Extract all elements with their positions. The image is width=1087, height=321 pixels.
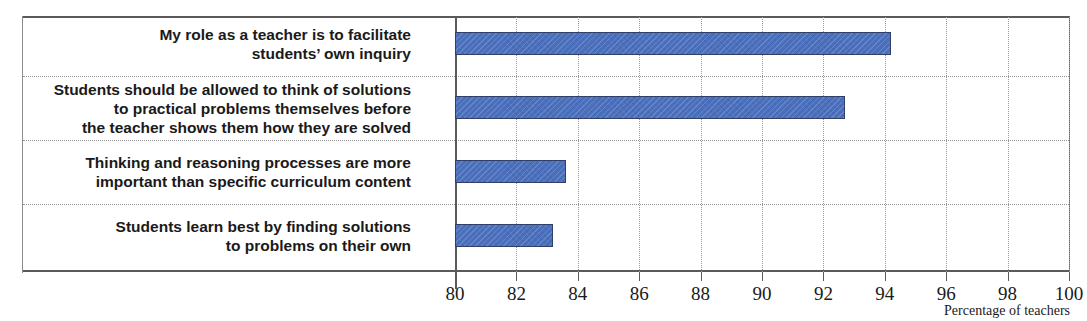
bar bbox=[455, 96, 845, 119]
tick-label: 96 bbox=[937, 283, 956, 305]
bar bbox=[455, 32, 891, 55]
tick-mark bbox=[701, 272, 702, 281]
tick-label: 100 bbox=[1055, 283, 1084, 305]
bar-chart: My role as a teacher is to facilitate st… bbox=[0, 0, 1087, 321]
tick-mark bbox=[823, 272, 824, 281]
gridline bbox=[1069, 17, 1070, 272]
tick-mark bbox=[1008, 272, 1009, 281]
chart-category-row: Students learn best by finding solutions… bbox=[23, 204, 1069, 268]
category-label: Students learn best by finding solutions… bbox=[23, 204, 433, 268]
tick-label: 94 bbox=[875, 283, 894, 305]
tick-mark bbox=[455, 272, 456, 281]
tick-mark bbox=[516, 272, 517, 281]
tick-mark bbox=[946, 272, 947, 281]
tick-mark bbox=[762, 272, 763, 281]
category-label: My role as a teacher is to facilitate st… bbox=[23, 12, 433, 76]
category-label: Students should be allowed to think of s… bbox=[23, 76, 433, 140]
chart-category-row: Students should be allowed to think of s… bbox=[23, 76, 1069, 140]
tick-label: 84 bbox=[568, 283, 587, 305]
x-axis-label: Percentage of teachers bbox=[944, 303, 1070, 319]
tick-mark bbox=[639, 272, 640, 281]
tick-label: 98 bbox=[998, 283, 1017, 305]
tick-mark bbox=[578, 272, 579, 281]
bar bbox=[455, 160, 566, 183]
category-label: Thinking and reasoning processes are mor… bbox=[23, 140, 433, 204]
tick-label: 86 bbox=[630, 283, 649, 305]
tick-mark bbox=[1069, 272, 1070, 281]
tick-label: 88 bbox=[691, 283, 710, 305]
tick-label: 90 bbox=[753, 283, 772, 305]
tick-label: 92 bbox=[814, 283, 833, 305]
tick-mark bbox=[885, 272, 886, 281]
bar bbox=[455, 224, 553, 247]
chart-category-row: My role as a teacher is to facilitate st… bbox=[23, 12, 1069, 76]
tick-label: 80 bbox=[446, 283, 465, 305]
tick-label: 82 bbox=[507, 283, 526, 305]
chart-category-row: Thinking and reasoning processes are mor… bbox=[23, 140, 1069, 204]
